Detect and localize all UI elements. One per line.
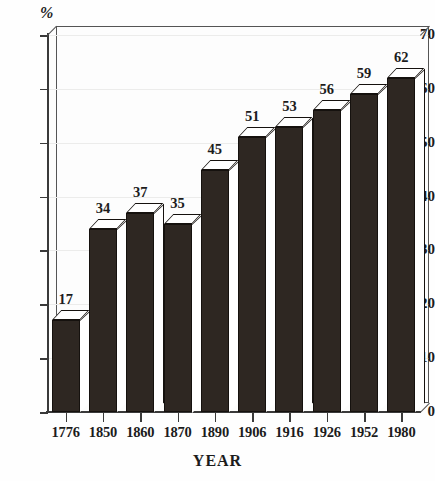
x-axis-tick <box>66 413 68 422</box>
x-axis-tick <box>215 413 217 422</box>
x-axis-tick <box>140 413 142 422</box>
bar-value-label: 45 <box>208 141 223 158</box>
x-axis-tick <box>289 413 291 422</box>
bar-front-face <box>164 224 192 413</box>
bar-value-label: 62 <box>394 49 409 66</box>
x-axis-tick <box>103 413 105 422</box>
x-axis-tick <box>178 413 180 422</box>
bar-value-label: 59 <box>357 65 372 82</box>
x-axis-tick <box>252 413 254 422</box>
bar-front-face <box>313 110 341 412</box>
bar-front-face <box>350 94 378 412</box>
y-axis-unit-label: % <box>40 4 53 22</box>
bar-front-face <box>387 78 415 412</box>
x-axis-title: YEAR <box>0 452 435 470</box>
bar[interactable]: 51 <box>238 128 266 412</box>
bar-value-label: 37 <box>133 184 148 201</box>
bar-side-face <box>415 69 425 412</box>
bar[interactable]: 17 <box>52 311 80 412</box>
y-axis-line <box>47 33 49 413</box>
bar-value-label: 17 <box>58 291 73 308</box>
bar-value-label: 35 <box>170 195 185 212</box>
bar-value-label: 34 <box>96 200 111 217</box>
x-axis-tick <box>327 413 329 422</box>
bar[interactable]: 45 <box>201 161 229 412</box>
x-axis-tick <box>401 413 403 422</box>
bar-chart: % 010203040506070 17343735455153565962 1… <box>0 0 435 481</box>
bar[interactable]: 56 <box>313 101 341 412</box>
bar[interactable]: 37 <box>126 204 154 412</box>
bar[interactable]: 62 <box>387 69 415 412</box>
bar-value-label: 56 <box>320 81 335 98</box>
bar-value-label: 53 <box>282 98 297 115</box>
x-axis-tick-label: 1980 <box>379 424 423 441</box>
bar-value-label: 51 <box>245 108 260 125</box>
bar-front-face <box>275 127 303 412</box>
bar[interactable]: 35 <box>164 215 192 413</box>
gridline <box>48 35 430 36</box>
bar-front-face <box>201 170 229 412</box>
x-axis-tick <box>364 413 366 422</box>
bar[interactable]: 53 <box>275 118 303 412</box>
bar-front-face <box>126 213 154 412</box>
bar[interactable]: 59 <box>350 85 378 412</box>
bar-front-face <box>89 229 117 412</box>
bar[interactable]: 34 <box>89 220 117 412</box>
bar-front-face <box>52 320 80 412</box>
bar-front-face <box>238 137 266 412</box>
